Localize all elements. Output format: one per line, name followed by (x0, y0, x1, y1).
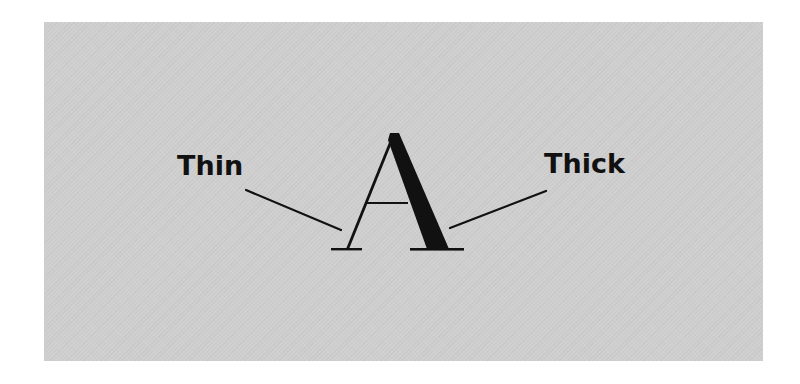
crossbar (365, 202, 408, 204)
left-serif (331, 248, 362, 250)
thick-stroke (388, 133, 449, 249)
letter-a-diagram (0, 0, 800, 384)
right-serif (410, 248, 464, 251)
letter-a-glyph (331, 133, 464, 251)
thin-stroke (346, 135, 395, 249)
thin-pointer-line (246, 190, 341, 230)
thick-pointer-line (450, 191, 546, 228)
